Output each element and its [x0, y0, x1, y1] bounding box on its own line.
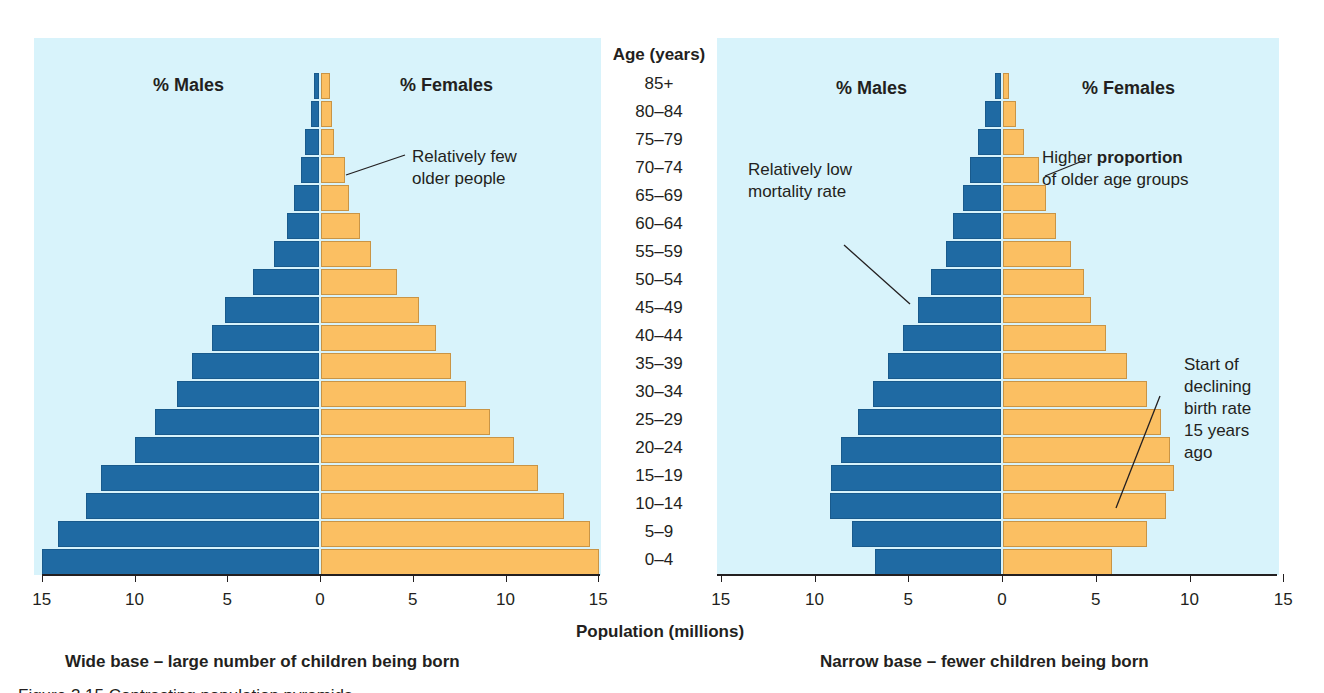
male-bar	[192, 353, 319, 379]
female-bar	[321, 353, 451, 379]
male-bar	[177, 381, 319, 407]
female-bar	[321, 437, 514, 463]
female-bar	[321, 241, 371, 267]
male-bar	[294, 185, 319, 211]
female-bar	[321, 157, 345, 183]
age-axis-title: Age (years)	[600, 45, 718, 65]
age-label: 60–64	[600, 214, 718, 234]
annotation-higher-bold: proportion	[1097, 148, 1183, 167]
female-bar	[1003, 521, 1147, 547]
x-tick-label: 10	[795, 590, 835, 610]
x-tick	[320, 574, 321, 582]
male-bar	[918, 297, 1001, 323]
x-tick	[413, 574, 414, 582]
female-bar	[321, 325, 436, 351]
age-label: 20–24	[600, 438, 718, 458]
male-bar	[155, 409, 319, 435]
x-tick-label: 15	[701, 590, 741, 610]
female-bar	[1003, 381, 1147, 407]
female-bar	[321, 269, 397, 295]
female-bar	[1003, 73, 1009, 99]
female-bar	[1003, 353, 1127, 379]
age-label: 85+	[600, 74, 718, 94]
x-tick-label: 10	[486, 590, 526, 610]
male-bar	[841, 437, 1001, 463]
left-males-label: % Males	[153, 75, 224, 96]
female-bar	[321, 129, 334, 155]
left-x-axis	[43, 574, 600, 576]
male-bar	[985, 101, 1001, 127]
male-bar	[995, 73, 1002, 99]
male-bar	[42, 549, 319, 575]
male-bar	[253, 269, 319, 295]
male-bar	[963, 185, 1001, 211]
x-tick-label: 10	[115, 590, 155, 610]
female-bar	[321, 185, 349, 211]
age-label: 40–44	[600, 326, 718, 346]
age-label: 10–14	[600, 494, 718, 514]
male-bar	[875, 549, 1002, 575]
x-tick	[135, 574, 136, 582]
x-tick-label: 5	[393, 590, 433, 610]
x-tick-label: 15	[1263, 590, 1303, 610]
male-bar	[311, 101, 319, 127]
right-x-axis	[717, 574, 1277, 576]
annotation-low-mortality: Relatively low mortality rate	[748, 159, 852, 203]
female-bar	[1003, 297, 1091, 323]
right-females-label: % Females	[1082, 78, 1175, 99]
age-label: 80–84	[600, 102, 718, 122]
male-bar	[953, 213, 1001, 239]
x-tick-label: 0	[300, 590, 340, 610]
female-bar	[321, 381, 466, 407]
annotation-higher-proportion: Higher proportion of older age groups	[1042, 147, 1189, 191]
x-tick-label: 5	[888, 590, 928, 610]
x-tick	[721, 574, 722, 582]
female-bar	[1003, 213, 1056, 239]
age-label: 35–39	[600, 354, 718, 374]
x-tick	[1002, 574, 1003, 582]
male-bar	[305, 129, 319, 155]
male-bar	[873, 381, 1001, 407]
male-bar	[287, 213, 319, 239]
male-bar	[903, 325, 1001, 351]
x-tick	[1283, 574, 1284, 582]
male-bar	[852, 521, 1001, 547]
female-bar	[321, 73, 330, 99]
female-bar	[321, 409, 490, 435]
male-bar	[314, 73, 319, 99]
annotation-few-older-people: Relatively few older people	[412, 146, 517, 190]
x-tick-label: 5	[1076, 590, 1116, 610]
age-label: 25–29	[600, 410, 718, 430]
male-bar	[858, 409, 1001, 435]
male-bar	[225, 297, 319, 323]
female-bar	[1003, 437, 1170, 463]
female-bar	[1003, 465, 1174, 491]
age-label: 15–19	[600, 466, 718, 486]
x-tick	[42, 574, 43, 582]
age-label: 70–74	[600, 158, 718, 178]
female-bar	[321, 521, 590, 547]
x-tick	[1190, 574, 1191, 582]
right-males-label: % Males	[836, 78, 907, 99]
x-tick	[227, 574, 228, 582]
x-tick-label: 15	[578, 590, 618, 610]
female-bar	[1003, 185, 1046, 211]
left-caption: Wide base – large number of children bei…	[65, 652, 460, 672]
x-tick	[598, 574, 599, 582]
female-bar	[321, 493, 564, 519]
x-tick	[815, 574, 816, 582]
male-bar	[978, 129, 1001, 155]
male-bar	[946, 241, 1001, 267]
x-tick	[506, 574, 507, 582]
male-bar	[831, 465, 1001, 491]
male-bar	[301, 157, 319, 183]
male-bar	[101, 465, 319, 491]
female-bar	[1003, 129, 1024, 155]
age-label: 30–34	[600, 382, 718, 402]
female-bar	[1003, 409, 1161, 435]
male-bar	[830, 493, 1002, 519]
male-bar	[931, 269, 1001, 295]
female-bar	[1003, 549, 1112, 575]
female-bar	[1003, 493, 1166, 519]
female-bar	[321, 101, 332, 127]
